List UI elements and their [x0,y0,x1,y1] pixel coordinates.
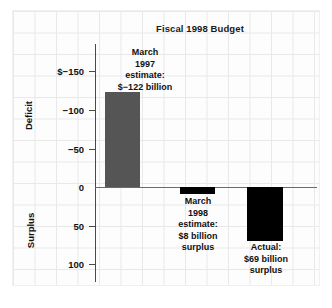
y-tick-mark-minus50 [89,149,96,150]
y-tick-label-minus150: $−150 [24,66,84,77]
bar-march-1997-estimate [105,92,140,187]
bar-annotation-actual: Actual: $69 billion surplus [229,242,303,277]
y-tick-mark-100 [89,264,96,265]
chart-title: Fiscal 1998 Budget [100,23,300,34]
y-tick-label-zero: 0 [24,182,84,193]
axis-label-deficit: Deficit [23,86,34,146]
y-tick-mark-50 [89,226,96,227]
bar-actual [247,187,283,241]
bar-annotation-march-1997: March 1997 estimate: $−122 billion [85,47,205,93]
chart-figure: Fiscal 1998 Budget $−150 −100 −50 0 50 1… [0,0,332,308]
axis-label-surplus: Surplus [25,201,36,261]
plot-area: Fiscal 1998 Budget $−150 −100 −50 0 50 1… [0,0,332,308]
bar-annotation-march-1998: March 1998 estimate: $8 billion surplus [160,196,236,254]
y-tick-mark-minus100 [89,110,96,111]
bar-march-1998-estimate [180,187,215,194]
